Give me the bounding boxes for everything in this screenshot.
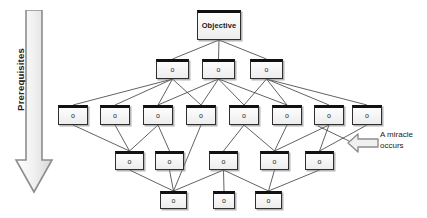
node-label: o: [71, 112, 75, 120]
diagram-canvas: Prerequisites A miracle occurs Objective…: [0, 0, 427, 218]
edge: [224, 170, 269, 191]
edge: [224, 125, 245, 151]
prerequisite-node[interactable]: o: [155, 151, 184, 170]
objective-node[interactable]: Objective: [197, 10, 241, 40]
node-label: o: [168, 158, 172, 166]
edge: [244, 79, 267, 105]
prerequisite-node[interactable]: o: [352, 105, 382, 125]
node-label: Objective: [202, 22, 237, 30]
node-label: o: [285, 112, 289, 120]
prerequisite-node[interactable]: o: [58, 105, 88, 125]
edge: [115, 125, 130, 151]
node-label: o: [365, 112, 369, 120]
prerequisite-node[interactable]: o: [209, 151, 238, 170]
edge: [219, 40, 220, 59]
edge: [173, 79, 202, 105]
prerequisites-arrow-icon: [14, 10, 54, 210]
edge: [158, 125, 170, 151]
edge: [269, 170, 275, 191]
edge: [170, 170, 174, 191]
miracle-annotation-line2: occurs: [380, 140, 413, 151]
node-label: o: [156, 112, 160, 120]
prerequisite-node[interactable]: o: [213, 191, 235, 209]
edge: [130, 125, 159, 151]
node-label: o: [265, 66, 269, 74]
prerequisite-node[interactable]: o: [186, 105, 216, 125]
edge: [224, 170, 225, 191]
prerequisite-node[interactable]: o: [272, 105, 302, 125]
edge: [275, 125, 288, 151]
edge: [269, 170, 320, 191]
node-label: o: [172, 197, 176, 205]
prerequisite-node[interactable]: o: [314, 105, 344, 125]
node-label: o: [128, 158, 132, 166]
prerequisite-node[interactable]: o: [260, 151, 289, 170]
node-label: o: [318, 158, 322, 166]
miracle-annotation-line1: A miracle: [380, 129, 413, 140]
prerequisite-node[interactable]: o: [255, 191, 282, 209]
prerequisite-node[interactable]: o: [160, 191, 187, 209]
edge: [158, 79, 173, 105]
node-label: o: [273, 158, 277, 166]
edge: [219, 40, 267, 59]
node-label: o: [267, 197, 271, 205]
edge: [130, 170, 174, 191]
node-label: o: [222, 197, 226, 205]
edge: [173, 40, 220, 59]
edge: [73, 125, 130, 151]
prerequisite-node[interactable]: o: [143, 105, 173, 125]
edge: [267, 79, 368, 105]
node-label: o: [113, 112, 117, 120]
prerequisite-node[interactable]: o: [100, 105, 130, 125]
prerequisite-node[interactable]: o: [305, 151, 334, 170]
node-label: o: [199, 112, 203, 120]
miracle-annotation: A miracle occurs: [380, 129, 413, 151]
left-block-arrow-icon: [347, 133, 379, 153]
prerequisite-node[interactable]: o: [115, 151, 144, 170]
node-label: o: [222, 158, 226, 166]
miracle-connector: [318, 126, 349, 141]
node-label: o: [171, 66, 175, 74]
edge: [219, 79, 245, 105]
prerequisite-node[interactable]: o: [250, 59, 283, 79]
node-label: o: [327, 112, 331, 120]
prerequisite-node[interactable]: o: [229, 105, 259, 125]
node-label: o: [217, 66, 221, 74]
edge: [244, 125, 275, 151]
prerequisite-node[interactable]: o: [202, 59, 235, 79]
prerequisite-node[interactable]: o: [156, 59, 189, 79]
node-label: o: [242, 112, 246, 120]
